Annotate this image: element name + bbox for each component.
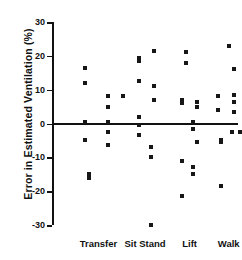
y-tick-label: -10: [32, 152, 45, 162]
x-label-lift: Lift: [182, 238, 197, 249]
zero-reference-line: [52, 123, 238, 125]
y-tick-mark: [47, 56, 52, 58]
data-point: [195, 105, 199, 109]
data-point: [184, 50, 188, 54]
y-tick-label: 0: [40, 119, 45, 129]
data-point: [184, 61, 188, 65]
y-tick-mark: [47, 191, 52, 193]
data-point: [121, 94, 125, 98]
y-tick-mark: [47, 124, 52, 126]
data-point: [83, 81, 87, 85]
data-point: [219, 184, 223, 188]
data-point: [191, 127, 195, 131]
data-point: [152, 98, 156, 102]
data-point: [152, 84, 156, 88]
data-point: [83, 120, 87, 124]
data-point: [106, 130, 110, 134]
x-axis-category-labels: TransferSit StandLiftWalk: [52, 238, 242, 254]
y-tick-label: -30: [32, 220, 45, 230]
scatter-chart-figure: Error in Estimated Ventilation (%) 30201…: [0, 0, 242, 260]
data-point: [219, 140, 223, 144]
data-point: [180, 159, 184, 163]
y-tick-mark: [47, 90, 52, 92]
data-point: [216, 94, 220, 98]
data-point: [149, 155, 153, 159]
data-point: [137, 79, 141, 83]
data-point: [191, 120, 195, 124]
data-point: [149, 223, 153, 227]
y-tick-mark: [47, 225, 52, 227]
y-tick-label: 20: [35, 51, 45, 61]
data-point: [227, 44, 231, 48]
y-tick-label: 10: [35, 85, 45, 95]
data-point: [83, 138, 87, 142]
data-point: [191, 172, 195, 176]
x-label-sit-stand: Sit Stand: [124, 238, 165, 249]
plot-area: 3020100-10-20-30: [52, 22, 238, 225]
y-tick-label: 30: [35, 17, 45, 27]
data-point: [137, 133, 141, 137]
x-label-walk: Walk: [218, 238, 240, 249]
data-point: [191, 165, 195, 169]
data-point: [106, 120, 110, 124]
data-point: [180, 194, 184, 198]
data-point: [137, 115, 141, 119]
data-point: [137, 123, 141, 127]
data-point: [106, 105, 110, 109]
data-point: [232, 100, 236, 104]
data-point: [137, 59, 141, 63]
y-tick-mark: [47, 22, 52, 24]
data-point: [216, 108, 220, 112]
y-axis-title: Error in Estimated Ventilation (%): [22, 14, 34, 214]
data-point: [238, 130, 242, 134]
data-point: [83, 66, 87, 70]
data-point: [106, 143, 110, 147]
data-point: [149, 145, 153, 149]
y-tick-mark: [47, 157, 52, 159]
data-point: [106, 94, 110, 98]
data-point: [195, 100, 199, 104]
y-tick-label: -20: [32, 186, 45, 196]
data-point: [180, 101, 184, 105]
data-point: [195, 140, 199, 144]
data-point: [232, 67, 236, 71]
data-point: [230, 130, 234, 134]
data-point: [232, 110, 236, 114]
data-point: [232, 93, 236, 97]
data-point: [87, 176, 91, 180]
x-label-transfer: Transfer: [80, 238, 118, 249]
data-point: [152, 49, 156, 53]
